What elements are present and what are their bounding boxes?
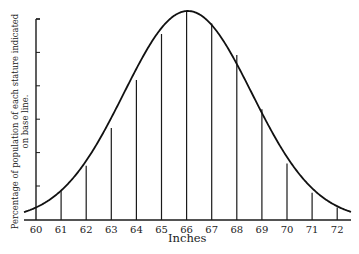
x-tick-label: 69 [256,224,269,235]
y-axis-label-line2: on base line. [20,7,30,237]
ordinate-lines [61,11,337,220]
x-tick-label: 72 [331,224,344,235]
x-tick-label: 70 [281,224,294,235]
x-tick-label: 71 [306,224,319,235]
x-tick-label: 64 [130,224,143,235]
chart-plot: 60616263646566676869707172 [0,0,359,254]
x-tick-label: 68 [230,224,243,235]
x-tick-label: 62 [80,224,93,235]
x-tick-label: 63 [105,224,118,235]
x-tick-label: 67 [205,224,218,235]
x-tick-label: 61 [55,224,68,235]
x-tick-label: 60 [30,224,43,235]
x-axis-label: Inches [168,231,207,245]
x-tick-label: 65 [155,224,168,235]
y-axis-label: Percentage of population of each stature… [11,7,30,237]
distribution-curve [24,11,351,212]
